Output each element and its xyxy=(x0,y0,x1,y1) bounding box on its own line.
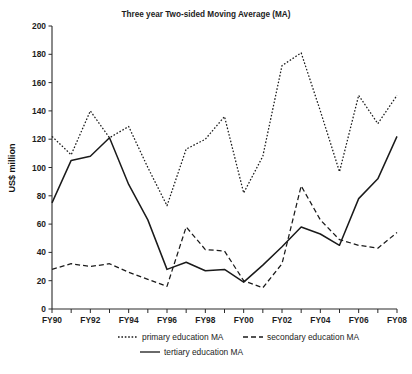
y-tick-label: 80 xyxy=(37,191,47,201)
x-tick-label: FY92 xyxy=(80,315,100,325)
line-chart: Three year Two-sided Moving Average (MA)… xyxy=(0,0,412,374)
y-tick-label: 180 xyxy=(32,49,46,59)
chart-title: Three year Two-sided Moving Average (MA) xyxy=(122,10,291,19)
y-axis: 020406080100120140160180200 xyxy=(32,21,52,314)
x-tick-label: FY04 xyxy=(310,315,330,325)
legend-label[interactable]: primary education MA xyxy=(142,332,224,342)
y-tick-label: 100 xyxy=(32,163,46,173)
x-tick-label: FY90 xyxy=(42,315,62,325)
x-tick-label: FY94 xyxy=(119,315,139,325)
series-line-solid xyxy=(52,136,397,282)
y-tick-label: 20 xyxy=(37,276,47,286)
y-tick-label: 140 xyxy=(32,106,46,116)
y-tick-label: 0 xyxy=(41,304,46,314)
x-tick-label: FY96 xyxy=(157,315,177,325)
chart-container: Three year Two-sided Moving Average (MA)… xyxy=(0,0,412,374)
x-axis: FY90FY92FY94FY96FY98FY00FY02FY04FY06FY08 xyxy=(42,309,407,325)
legend-label[interactable]: tertiary education MA xyxy=(164,347,244,357)
y-axis-title: US$ million xyxy=(7,143,17,192)
y-tick-label: 40 xyxy=(37,247,47,257)
x-tick-label: FY08 xyxy=(387,315,407,325)
y-tick-label: 160 xyxy=(32,78,46,88)
series-lines xyxy=(52,53,397,288)
y-tick-label: 200 xyxy=(32,21,46,31)
y-tick-label: 120 xyxy=(32,134,46,144)
x-tick-label: FY00 xyxy=(234,315,254,325)
chart-legend: primary education MAsecondary education … xyxy=(118,332,360,357)
legend-label[interactable]: secondary education MA xyxy=(267,332,360,342)
x-tick-label: FY98 xyxy=(195,315,215,325)
x-tick-label: FY06 xyxy=(349,315,369,325)
y-tick-label: 60 xyxy=(37,219,47,229)
x-tick-label: FY02 xyxy=(272,315,292,325)
series-line-dotted xyxy=(52,53,397,206)
series-line-dashed xyxy=(52,186,397,288)
